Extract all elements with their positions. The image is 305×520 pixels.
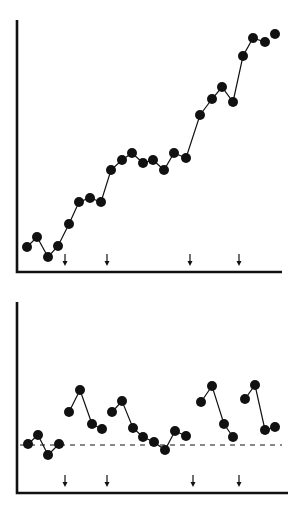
data-point [23,439,33,449]
series-line [201,386,233,437]
data-point [170,426,180,436]
data-point [148,155,158,165]
series-line [69,390,102,429]
data-point [138,432,148,442]
data-point [64,407,74,417]
data-point [159,165,169,175]
arrow-head-icon [63,482,68,487]
data-point [43,252,53,262]
arrow-head-icon [105,261,110,266]
data-point [219,419,229,429]
data-point [128,423,138,433]
data-point [195,110,205,120]
data-point [160,445,170,455]
data-point [169,148,179,158]
series-line [112,401,186,450]
data-point [181,431,191,441]
data-point [96,197,106,207]
data-point [107,407,117,417]
data-point [32,232,42,242]
data-point [149,437,159,447]
data-point [250,380,260,390]
data-point [22,242,32,252]
arrow-head-icon [237,261,242,266]
data-point [228,97,238,107]
arrow-head-icon [237,482,242,487]
series-line [245,385,275,430]
data-point [97,424,107,434]
data-point [270,422,280,432]
data-point [138,158,148,168]
data-point [207,381,217,391]
data-point [228,432,238,442]
data-point [127,148,137,158]
data-point [75,385,85,395]
data-point [248,33,258,43]
data-point [260,425,270,435]
data-point [117,396,127,406]
data-point [53,241,63,251]
data-point [217,82,227,92]
chart-figure [0,0,305,520]
data-point [196,397,206,407]
data-point [33,430,43,440]
arrow-head-icon [191,482,196,487]
series-line [27,38,265,257]
data-point [43,450,53,460]
data-point [240,394,250,404]
data-point [106,165,116,175]
cumulative-chart [17,20,282,272]
data-point [117,155,127,165]
data-point [270,29,280,39]
data-point [85,193,95,203]
data-point [64,219,74,229]
data-point [260,37,270,47]
rate-chart [17,302,288,493]
data-point [181,153,191,163]
data-point [87,419,97,429]
arrow-head-icon [63,261,68,266]
data-point [238,51,248,61]
arrow-head-icon [188,261,193,266]
data-point [54,439,64,449]
arrow-head-icon [105,482,110,487]
data-point [207,94,217,104]
data-point [74,197,84,207]
